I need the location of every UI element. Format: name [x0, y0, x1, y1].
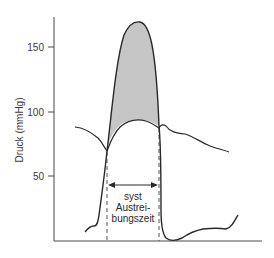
ejection-time-double-arrow: [108, 182, 158, 188]
annotation-line-1: syst: [124, 191, 142, 202]
y-tick-label-150: 150: [27, 42, 44, 53]
y-tick-label-50: 50: [33, 171, 45, 182]
ventricular-pressure-curve: [85, 22, 238, 240]
aortic-pressure-curve: [75, 120, 229, 152]
annotation-line-3: bungszeit: [112, 213, 155, 224]
pressure-chart: 150 100 50 Druck (mmHg) syst Austrei- bu…: [0, 0, 274, 258]
y-tick-label-100: 100: [27, 107, 44, 118]
y-axis-label: Druck (mmHg): [14, 98, 25, 163]
annotation-line-2: Austrei-: [116, 202, 150, 213]
